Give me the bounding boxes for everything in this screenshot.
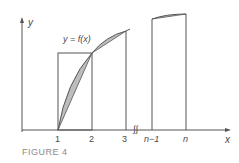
x-tick-1: 1: [55, 134, 60, 144]
curve-f: [58, 29, 130, 130]
y-axis-arrow-icon: [20, 17, 24, 23]
curve-label: y = f(x): [63, 34, 91, 44]
x-tick-3: 3: [122, 134, 127, 144]
x-tick-n: n: [183, 134, 188, 144]
x-axis-label: x: [225, 134, 230, 145]
figure-graph: [0, 0, 239, 163]
chord-2-3: [92, 31, 126, 53]
x-axis-arrow-icon: [225, 128, 231, 132]
chord-1-2: [58, 53, 92, 130]
figure-caption: FIGURE 4: [22, 147, 68, 157]
y-axis-label: y: [28, 17, 33, 28]
axis-break-mark: ∫∫: [133, 124, 138, 134]
x-tick-n-minus-1: n−1: [144, 134, 159, 144]
x-tick-2: 2: [89, 134, 94, 144]
